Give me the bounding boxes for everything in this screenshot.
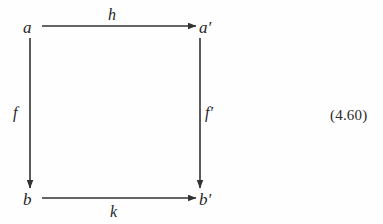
edge-label-k: k (110, 204, 117, 220)
node-label-a: a (23, 19, 32, 36)
edge-label-h: h (108, 7, 116, 23)
edge-label-f-prime: f′ (205, 105, 213, 121)
equation-number: (4.60) (330, 108, 367, 123)
commutative-diagram-figure: a a′ b b′ h k f f′ (4.60) (0, 0, 383, 224)
node-label-b: b (23, 191, 32, 208)
diagram-canvas (0, 0, 383, 224)
node-label-a-prime: a′ (199, 19, 211, 36)
edge-label-f: f (13, 105, 17, 121)
node-label-b-prime: b′ (199, 191, 211, 208)
